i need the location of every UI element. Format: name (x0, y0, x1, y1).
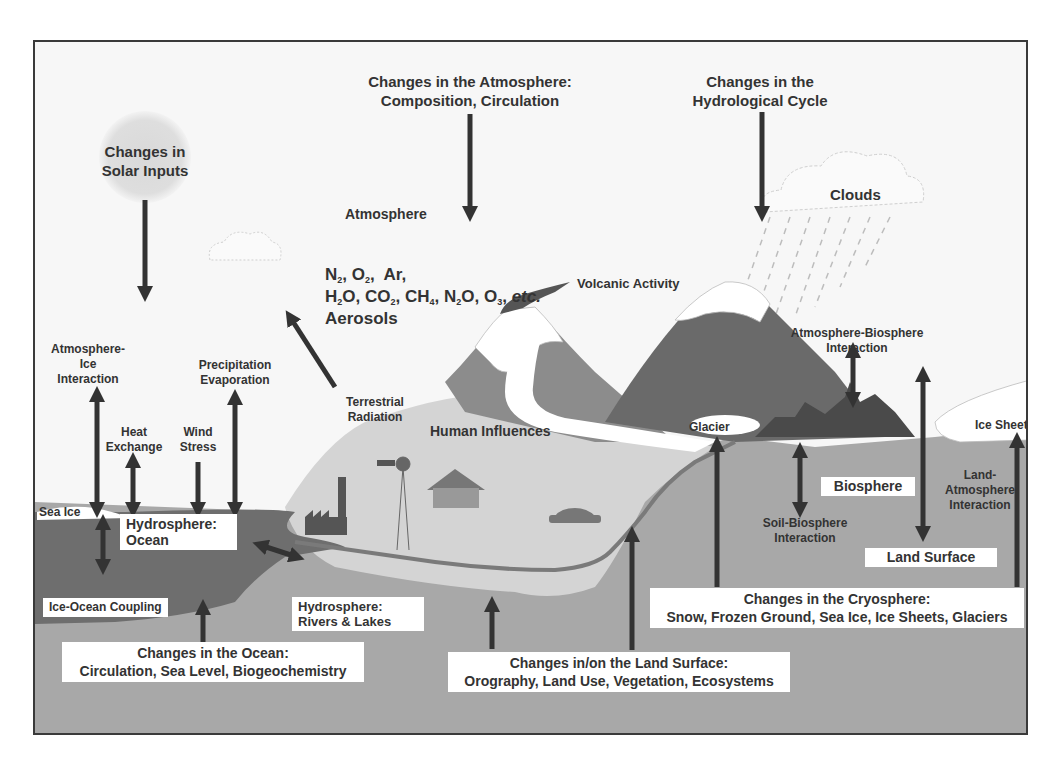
hydro-driver-line2: Hydrological Cycle (690, 91, 830, 110)
solar-line2: Solar Inputs (95, 161, 195, 180)
label-ice-sheet: Ice Sheet (975, 418, 1028, 433)
land-driver-line1: Changes in/on the Land Surface: (454, 654, 784, 672)
label-hydrosphere-ocean: Hydrosphere: Ocean (120, 514, 237, 550)
label-volcanic-activity: Volcanic Activity (577, 276, 680, 291)
label-atm-ice-interaction: Atmosphere- Ice Interaction (43, 342, 133, 387)
ocean-line1: Hydrosphere: (126, 516, 231, 532)
soil-bio-line1: Soil-Biosphere (750, 516, 860, 531)
label-atm-biosphere: Atmosphere-Biosphere Interaction (787, 326, 927, 356)
label-cryosphere-changes: Changes in the Cryosphere: Snow, Frozen … (650, 588, 1024, 628)
soil-bio-line2: Interaction (750, 531, 860, 546)
solar-line1: Changes in (95, 142, 195, 161)
label-wind-stress: Wind Stress (173, 425, 223, 455)
atm-ice-line3: Interaction (43, 372, 133, 387)
label-land-changes: Changes in/on the Land Surface: Orograph… (448, 652, 790, 692)
label-glacier: Glacier (689, 420, 730, 435)
label-heat-exchange: Heat Exchange (99, 425, 169, 455)
small-cloud-icon (209, 232, 281, 260)
atmosphere-driver-line2: Composition, Circulation (365, 91, 575, 110)
terrestrial-line1: Terrestrial (335, 395, 415, 410)
heat-line2: Exchange (99, 440, 169, 455)
atm-ice-line1: Atmosphere- (43, 342, 133, 357)
label-clouds: Clouds (830, 187, 881, 202)
ocean-line2: Ocean (126, 532, 231, 548)
precip-line2: Evaporation (185, 373, 285, 388)
label-aerosols: Aerosols (325, 308, 398, 330)
label-sea-ice: Sea Ice (39, 505, 80, 520)
label-terrestrial-radiation: Terrestrial Radiation (335, 395, 415, 425)
heat-line1: Heat (99, 425, 169, 440)
label-human-influences: Human Influences (430, 424, 551, 439)
land-atm-line3: Interaction (940, 498, 1020, 513)
atm-ice-line2: Ice (43, 357, 133, 372)
label-land-surface: Land Surface (865, 548, 997, 567)
cryo-driver-line1: Changes in the Cryosphere: (656, 590, 1018, 608)
cryo-driver-line2: Snow, Frozen Ground, Sea Ice, Ice Sheets… (656, 608, 1018, 626)
label-atmosphere-changes: Changes in the Atmosphere: Composition, … (365, 72, 575, 110)
label-land-atmosphere: Land- Atmosphere Interaction (940, 468, 1020, 513)
ocean-driver-line1: Changes in the Ocean: (68, 644, 358, 662)
ocean-driver-line2: Circulation, Sea Level, Biogeochemistry (68, 662, 358, 680)
label-biosphere: Biosphere (821, 477, 915, 496)
land-atm-line2: Atmosphere (940, 483, 1020, 498)
wind-line2: Stress (173, 440, 223, 455)
label-rivers-lakes: Hydrosphere: Rivers & Lakes (292, 597, 424, 631)
label-precip-evap: Precipitation Evaporation (185, 358, 285, 388)
label-ocean-changes: Changes in the Ocean: Circulation, Sea L… (62, 642, 364, 682)
label-soil-biosphere: Soil-Biosphere Interaction (750, 516, 860, 546)
atm-bio-line1: Atmosphere-Biosphere (787, 326, 927, 341)
terrestrial-line2: Radiation (335, 410, 415, 425)
label-solar-inputs: Changes in Solar Inputs (95, 142, 195, 180)
label-hydrological-cycle: Changes in the Hydrological Cycle (690, 72, 830, 110)
rivers-line2: Rivers & Lakes (298, 614, 418, 629)
label-atmosphere: Atmosphere (345, 207, 427, 222)
wind-line1: Wind (173, 425, 223, 440)
rivers-line1: Hydrosphere: (298, 599, 418, 614)
land-driver-line2: Orography, Land Use, Vegetation, Ecosyst… (454, 672, 784, 690)
atmosphere-driver-line1: Changes in the Atmosphere: (365, 72, 575, 91)
label-ice-ocean-coupling: Ice-Ocean Coupling (43, 598, 168, 617)
land-atm-line1: Land- (940, 468, 1020, 483)
atm-bio-line2: Interaction (787, 341, 927, 356)
hydro-driver-line1: Changes in the (690, 72, 830, 91)
precip-line1: Precipitation (185, 358, 285, 373)
diagram-frame: Changes in Solar Inputs Changes in the A… (33, 40, 1028, 735)
